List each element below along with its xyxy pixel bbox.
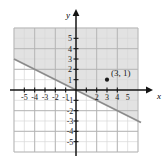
x-tick-label-4: 4 [115,93,119,102]
y-tick-label-4: 4 [68,45,72,54]
data-point-3-1 [105,78,109,82]
y-tick-label-5: 5 [68,34,72,43]
x-tick-label--4: -4 [31,93,38,102]
data-point-label: (3, 1) [111,68,131,78]
x-tick-label-5: 5 [126,93,130,102]
x-tick-label--5: -5 [21,93,28,102]
x-axis-arrow [146,87,153,94]
y-tick-label--5: -5 [67,138,74,147]
y-tick-label--2: -2 [67,107,74,116]
y-tick-label-2: 2 [68,65,72,74]
y-axis-label: y [65,10,70,20]
x-tick-label-2: 2 [95,93,99,102]
y-tick-label--3: -3 [67,117,74,126]
y-tick-label--1: -1 [67,96,74,105]
y-axis-arrow [73,9,80,16]
y-tick-label--4: -4 [67,127,74,136]
coordinate-plot: -5 -4 -3 -2 -1 2 3 4 5 5 4 3 2 1 -1 -2 -… [0,0,167,166]
x-tick-label--3: -3 [42,93,49,102]
x-axis-label: x [156,91,161,101]
y-tick-label-3: 3 [68,55,72,64]
x-tick-label--2: -2 [52,93,59,102]
y-tick-label-1: 1 [68,76,72,85]
coordinate-plane-figure: -5 -4 -3 -2 -1 2 3 4 5 5 4 3 2 1 -1 -2 -… [0,0,167,166]
x-tick-label-3: 3 [105,93,109,102]
